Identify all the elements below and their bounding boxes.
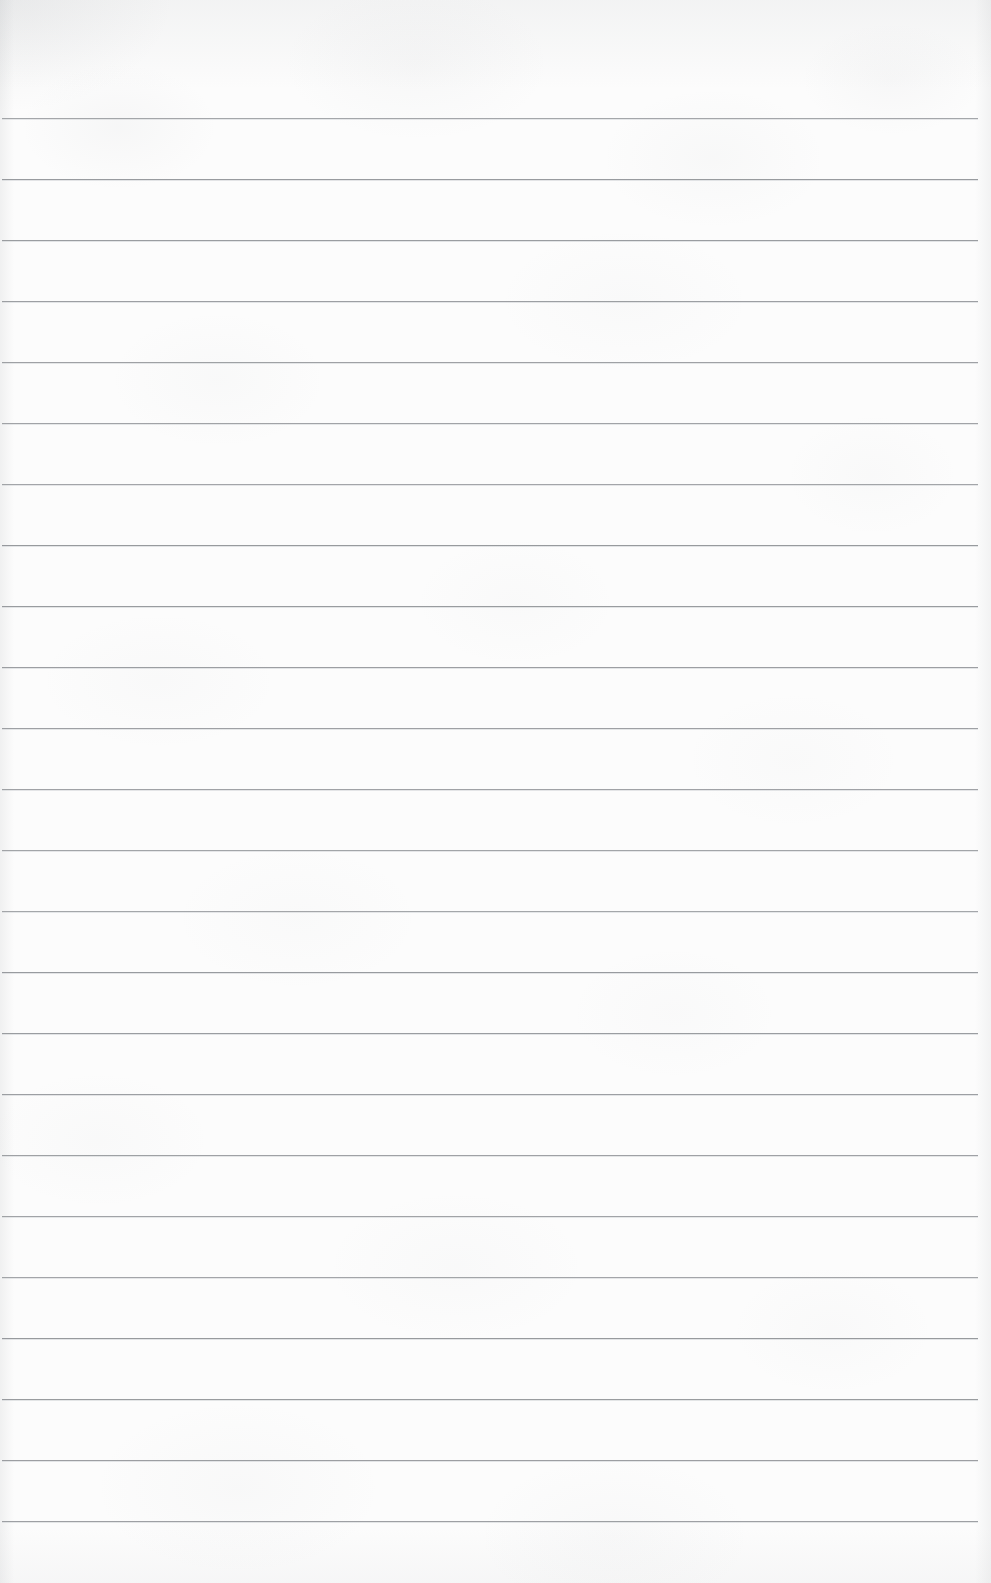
notepad-page	[0, 0, 991, 1583]
writing-area[interactable]	[2, 118, 978, 1528]
